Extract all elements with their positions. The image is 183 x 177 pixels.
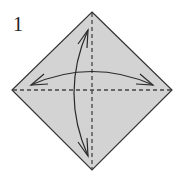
diagram-canvas [0,0,183,177]
step-number: 1 [13,14,23,34]
origami-step-diagram: 1 [0,0,183,177]
